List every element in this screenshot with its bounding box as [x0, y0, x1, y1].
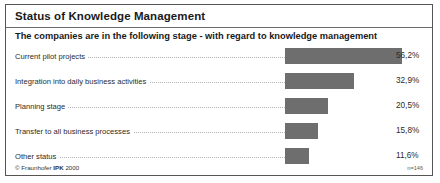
copyright-org: Fraunhofer: [21, 164, 51, 171]
header-divider: [6, 27, 432, 28]
bar-value-label: 20,5%: [396, 101, 419, 110]
copyright-symbol: ©: [15, 164, 20, 171]
bar: [285, 98, 328, 114]
bar: [285, 148, 309, 164]
bar-category-label: Integration into daily business activiti…: [15, 77, 149, 86]
bar-value-label: 56,2%: [396, 51, 419, 60]
bar-chart-plot: Current pilot projects 56,2% Integration…: [6, 47, 432, 176]
chart-row: Integration into daily business activiti…: [6, 72, 432, 97]
copyright-year: 2000: [65, 164, 79, 171]
bar-value-label: 15,8%: [396, 126, 419, 135]
chart-row: Current pilot projects 56,2%: [6, 47, 432, 72]
copyright-notice: © Fraunhofer IPK 2000: [15, 164, 79, 171]
bar-category-label: Planning stage: [15, 102, 68, 111]
sample-size-note: n=146: [407, 165, 423, 171]
bar: [285, 48, 402, 64]
chart-row: Planning stage 20,5%: [6, 97, 432, 122]
copyright-brand: IPK: [53, 164, 63, 171]
bar-category-label: Current pilot projects: [15, 52, 88, 61]
bar-category-label: Transfer to all business processes: [15, 127, 133, 136]
bar: [285, 123, 318, 139]
chart-row: Transfer to all business processes 15,8%: [6, 122, 432, 147]
page-title: Status of Knowledge Management: [15, 10, 205, 22]
chart-card: Status of Knowledge Management The compa…: [5, 4, 433, 176]
bar-value-label: 32,9%: [396, 76, 419, 85]
bar-value-label: 11,6%: [396, 151, 419, 160]
bar-category-label: Other status: [15, 152, 59, 161]
chart-subtitle: The companies are in the following stage…: [15, 31, 377, 41]
bar: [285, 73, 354, 89]
